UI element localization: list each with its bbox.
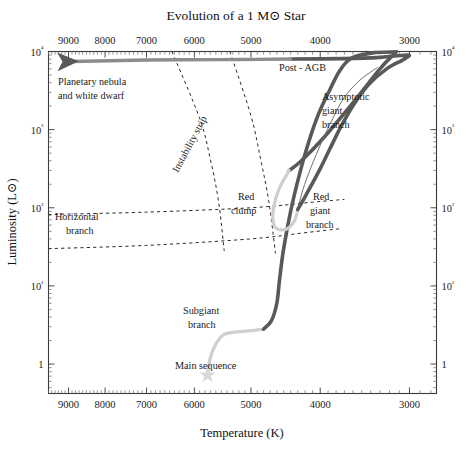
y-tick-label-right: 10²	[442, 202, 455, 214]
annotation-subgiant-branch-line2: branch	[188, 319, 216, 330]
evolution-chart: Evolution of a 1 M⊙ Star 900090008000800…	[0, 0, 473, 449]
x-tick-label-bottom: 6000	[184, 399, 205, 410]
annotation-red-giant-branch-line3: branch	[306, 219, 334, 230]
annotation-subgiant-branch-line1: Subgiant	[183, 305, 219, 316]
x-tick-label-bottom: 9000	[58, 399, 79, 410]
x-tick-label-top: 9000	[58, 35, 79, 46]
annotation-horizontal-branch-line2: branch	[66, 225, 94, 236]
annotation-post-agb: Post - AGB	[279, 62, 326, 73]
y-tick-label-right: 10¹	[442, 280, 455, 292]
annotation-instability-strip: Instability strip	[170, 114, 209, 174]
x-tick-label-bottom: 4000	[310, 399, 331, 410]
annotation-horizontal-branch-line1: Horizontal	[55, 211, 99, 222]
y-tick-label-left: 10⁴	[30, 45, 44, 57]
annotation-asymptotic-giant-branch-line3: branch	[322, 119, 350, 130]
instability-strip-red-edge	[230, 52, 276, 254]
hr-diagram-figure: Evolution of a 1 M⊙ Star 900090008000800…	[0, 0, 473, 449]
annotation-asymptotic-giant-branch-line1: Asymptotic	[322, 91, 370, 102]
x-axis-title: Temperature (K)	[200, 426, 283, 440]
annotation-red-clump-line1: Red	[238, 191, 254, 202]
annotation-red-giant-branch-line2: giant	[310, 205, 331, 216]
x-tick-label-top: 7000	[136, 35, 157, 46]
x-tick-label-bottom: 7000	[136, 399, 157, 410]
y-tick-label-left: 10¹	[31, 280, 44, 292]
y-tick-label-left: 10³	[31, 123, 45, 135]
y-tick-label-left: 10²	[31, 202, 44, 214]
x-tick-label-top: 3000	[399, 35, 420, 46]
annotation-main-sequence: Main sequence	[175, 360, 237, 371]
y-tick-label-right: 1	[442, 359, 447, 370]
post-agb-horizontal	[147, 59, 291, 60]
y-tick-label-right: 10⁴	[442, 45, 456, 57]
x-tick-label-bottom: 5000	[240, 399, 261, 410]
plot-frame	[49, 52, 437, 394]
y-tick-label-left: 1	[38, 359, 43, 370]
annotation-red-clump-line2: clump	[231, 205, 256, 216]
asymptotic-giant-branch	[298, 61, 402, 210]
x-tick-label-top: 6000	[184, 35, 205, 46]
annotation-asymptotic-giant-branch-line2: giant	[322, 105, 343, 116]
annotation-planetary-nebula-and-white-dwarf-line2: and white dwarf	[58, 90, 125, 101]
x-tick-label-bottom: 3000	[399, 399, 420, 410]
annotation-planetary-nebula-and-white-dwarf: Planetary nebula	[58, 76, 127, 87]
x-tick-label-top: 5000	[240, 35, 261, 46]
chart-title: Evolution of a 1 M⊙ Star	[166, 8, 306, 23]
agb-tip-to-post-agb	[291, 55, 410, 61]
x-tick-label-bottom: 8000	[95, 399, 116, 410]
x-tick-label-top: 4000	[310, 35, 331, 46]
chart-annotations: Planetary nebulaand white dwarfPost - AG…	[55, 62, 370, 371]
axis-ticks	[49, 52, 437, 394]
y-tick-label-right: 10³	[442, 123, 456, 135]
annotation-red-giant-branch-line1: Red	[313, 191, 329, 202]
planetary-nebula-arrow	[72, 60, 147, 62]
x-tick-label-top: 8000	[95, 35, 116, 46]
y-axis-title: Luminosity (L⊙)	[5, 178, 19, 265]
